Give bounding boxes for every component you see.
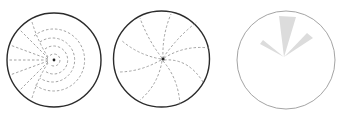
panel-concentric-field (0, 0, 112, 121)
center-dot (161, 57, 164, 60)
top-wedge (279, 16, 296, 57)
center-dot (53, 59, 56, 62)
concentric-field-diagram (0, 0, 112, 121)
panel-wedge-field (222, 0, 337, 121)
spiral-field-diagram (112, 0, 222, 121)
left-wedge (260, 40, 284, 57)
wedges (260, 16, 313, 57)
panel-spiral-field (112, 0, 222, 121)
radial-lines (8, 22, 48, 98)
wedge-field-diagram (222, 0, 337, 121)
